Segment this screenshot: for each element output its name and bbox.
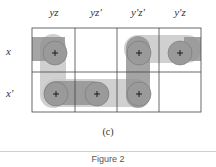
subfigure-caption: (c) — [0, 126, 216, 137]
figure-label: Figure 2 — [0, 154, 216, 164]
karnaugh-map — [0, 0, 216, 167]
divider — [0, 151, 216, 152]
